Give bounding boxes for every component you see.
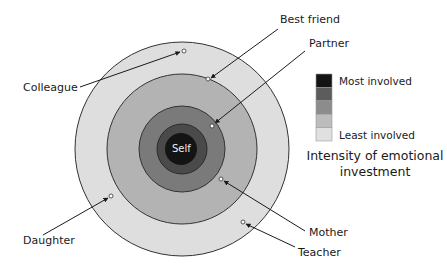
swatch-least-involved bbox=[316, 128, 332, 141]
label-teacher: Teacher bbox=[298, 247, 341, 258]
swatch-most-involved bbox=[316, 74, 332, 87]
mother-dot bbox=[219, 177, 223, 181]
swatch-level-4 bbox=[316, 114, 332, 127]
swatch-level-3 bbox=[316, 101, 332, 114]
label-best-friend: Best friend bbox=[280, 14, 340, 25]
label-mother: Mother bbox=[309, 227, 348, 238]
daughter-dot bbox=[109, 194, 113, 198]
teacher-dot bbox=[241, 220, 245, 224]
legend-caption-line2: investment bbox=[300, 164, 447, 180]
colleague-dot bbox=[182, 49, 186, 53]
legend-most-involved: Most involved bbox=[339, 76, 412, 87]
best-friend-dot bbox=[206, 77, 210, 81]
self-label: Self bbox=[172, 144, 191, 154]
daughter-pointer bbox=[43, 198, 108, 235]
label-partner: Partner bbox=[309, 38, 349, 49]
legend-least-involved: Least involved bbox=[339, 130, 415, 141]
legend-swatches bbox=[316, 74, 332, 141]
legend-caption: Intensity of emotional investment bbox=[300, 148, 447, 180]
label-daughter: Daughter bbox=[23, 235, 75, 246]
legend-caption-line1: Intensity of emotional bbox=[300, 148, 447, 164]
swatch-level-2 bbox=[316, 87, 332, 100]
label-colleague: Colleague bbox=[23, 82, 78, 93]
partner-dot bbox=[210, 124, 214, 128]
teacher-pointer bbox=[246, 224, 295, 247]
